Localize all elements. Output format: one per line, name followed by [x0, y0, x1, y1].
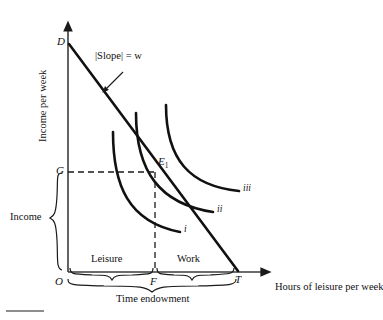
time-endowment-label: Time endowment [116, 294, 189, 305]
slope-annotation: |Slope| = w [95, 51, 142, 62]
x-axis-title: Hours of leisure per week [275, 282, 383, 293]
point-label-e1-letter: E [158, 155, 165, 167]
point-label-e1: E1 [158, 156, 168, 170]
indifference-curve-ii [136, 113, 213, 212]
leisure-brace [70, 268, 153, 280]
y-axis-title: Income per week [38, 70, 49, 142]
leisure-bracket-label: Leisure [91, 254, 123, 265]
work-bracket-label: Work [177, 254, 200, 265]
point-label-t: T [235, 274, 241, 285]
indifference-curve-iii [166, 105, 239, 191]
budget-constraint-line [69, 44, 238, 271]
income-bracket-label: Income [10, 212, 42, 223]
curve-label-i: i [184, 225, 187, 235]
page-rule-artifact [6, 310, 44, 312]
slope-leader-arrow [107, 72, 123, 88]
point-label-o: O [55, 276, 63, 287]
curve-label-ii: ii [217, 205, 222, 215]
work-brace [157, 268, 234, 280]
point-label-f: F [150, 276, 157, 287]
point-label-g: G [56, 165, 64, 176]
point-label-d: D [57, 36, 65, 47]
income-brace [50, 173, 62, 270]
point-label-e1-subscript: 1 [165, 161, 169, 170]
curve-label-iii: iii [243, 184, 251, 194]
